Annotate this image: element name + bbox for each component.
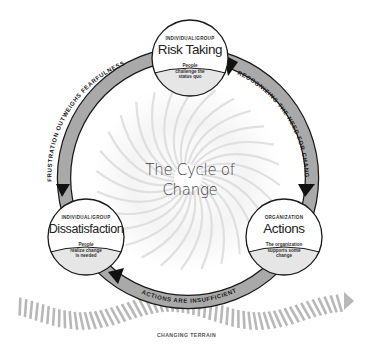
- node-title: Risk Taking: [152, 43, 228, 57]
- node-description: People realize change is needed: [46, 242, 126, 259]
- diagram-title: The Cycle of Change: [120, 160, 260, 200]
- title-line-1: The Cycle of: [120, 160, 260, 180]
- node-title: Actions: [246, 222, 322, 236]
- node-description: People challenge the status quo: [152, 63, 228, 80]
- title-line-2: Change: [120, 180, 260, 200]
- terrain-arrow-icon: [344, 292, 354, 310]
- node-description: The organization supports some change: [246, 242, 322, 259]
- node-category: ORGANIZATION: [246, 215, 322, 220]
- node-actions: ORGANIZATION Actions The organization su…: [246, 215, 322, 259]
- node-title: Dissatisfaction: [46, 222, 126, 236]
- node-risk-taking: INDIVIDUAL/GROUP Risk Taking People chal…: [152, 36, 228, 80]
- terrain-label: CHANGING TERRAIN: [0, 332, 373, 338]
- node-category: INDIVIDUAL/GROUP: [152, 36, 228, 41]
- node-category: INDIVIDUAL/GROUP: [46, 215, 126, 220]
- node-dissatisfaction: INDIVIDUAL/GROUP Dissatisfaction People …: [46, 215, 126, 259]
